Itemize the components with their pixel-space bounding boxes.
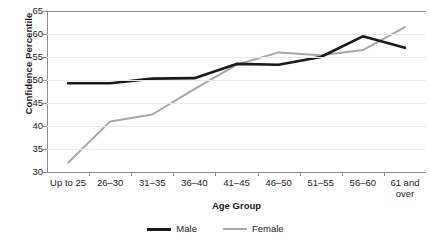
x-tick-label-6: 51–55 — [300, 178, 342, 189]
legend-item-male: Male — [147, 224, 197, 234]
x-tick-label-4: 41–45 — [215, 178, 257, 189]
male-series-line — [68, 36, 405, 83]
gridline-45 — [47, 103, 426, 104]
legend-item-female: Female — [223, 224, 284, 234]
male-line-swatch-icon — [147, 228, 171, 231]
y-tick-mark-40 — [43, 126, 47, 127]
gridline-35 — [47, 149, 426, 150]
y-tick-label-40: 40 — [25, 121, 43, 131]
x-tick-label-2: 31–35 — [131, 178, 173, 189]
y-tick-label-50: 50 — [25, 75, 43, 85]
x-tick-mark-8 — [384, 172, 385, 176]
gridline-55 — [47, 57, 426, 58]
chart-legend: Male Female — [0, 224, 431, 234]
line-chart: Confidence Percentile 3035404550556065 U… — [0, 0, 431, 247]
x-axis-line — [47, 172, 426, 173]
gridline-60 — [47, 34, 426, 35]
x-tick-label-5: 46–50 — [258, 178, 300, 189]
x-tick-mark-4 — [215, 172, 216, 176]
y-tick-label-55: 55 — [25, 52, 43, 62]
x-tick-mark-2 — [131, 172, 132, 176]
x-tick-label-8: 61 and over — [384, 178, 426, 199]
female-series-line — [68, 27, 405, 163]
y-tick-mark-65 — [43, 11, 47, 12]
y-tick-label-45: 45 — [25, 98, 43, 108]
y-tick-mark-60 — [43, 34, 47, 35]
gridline-50 — [47, 80, 426, 81]
x-tick-label-3: 36–40 — [173, 178, 215, 189]
x-tick-label-1: 26–30 — [89, 178, 131, 189]
legend-label-male: Male — [176, 224, 197, 234]
x-tick-mark-1 — [89, 172, 90, 176]
y-tick-mark-45 — [43, 103, 47, 104]
x-tick-label-7: 56–60 — [342, 178, 384, 189]
legend-label-female: Female — [252, 224, 284, 234]
x-axis-title: Age Group — [47, 200, 426, 211]
x-tick-label-0: Up to 25 — [47, 178, 89, 189]
y-tick-label-35: 35 — [25, 144, 43, 154]
y-tick-mark-55 — [43, 57, 47, 58]
x-tick-mark-3 — [173, 172, 174, 176]
y-axis-tick-labels: 3035404550556065 — [24, 11, 43, 172]
y-tick-label-30: 30 — [25, 167, 43, 177]
x-tick-mark-5 — [258, 172, 259, 176]
y-tick-label-65: 65 — [25, 6, 43, 16]
x-tick-mark-6 — [300, 172, 301, 176]
gridline-40 — [47, 126, 426, 127]
y-tick-label-60: 60 — [25, 29, 43, 39]
y-tick-mark-35 — [43, 149, 47, 150]
y-tick-mark-50 — [43, 80, 47, 81]
female-line-swatch-icon — [223, 228, 247, 230]
x-tick-mark-7 — [342, 172, 343, 176]
series-layer — [47, 11, 426, 172]
plot-area — [47, 11, 426, 172]
gridline-65 — [47, 11, 426, 12]
